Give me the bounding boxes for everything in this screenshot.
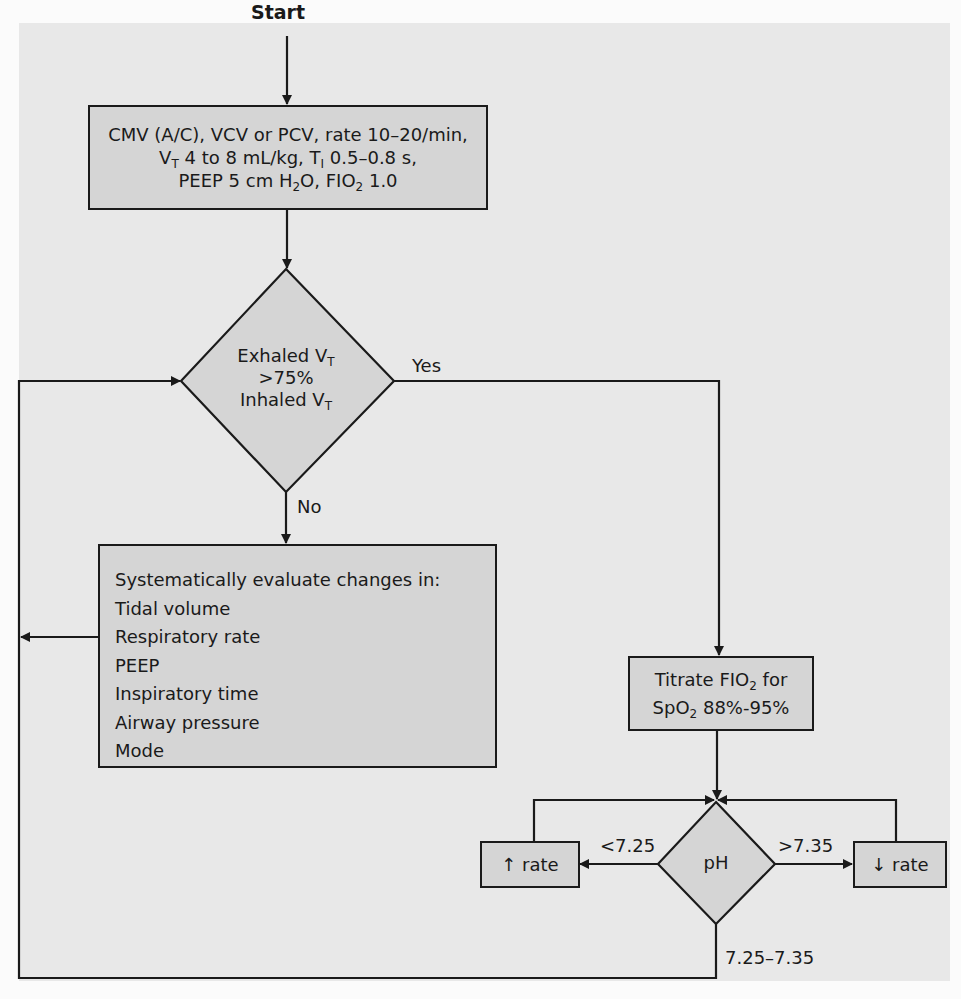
- settings-line-1: CMV (A/C), VCV or PCV, rate 10–20/min,: [90, 123, 486, 146]
- evaluate-item: Mode: [115, 737, 495, 766]
- down-arrow-icon: ↓: [871, 854, 886, 875]
- evaluate-item: Respiratory rate: [115, 623, 495, 652]
- titrate-box: Titrate FIO2 for SpO2 88%-95%: [628, 656, 814, 731]
- no-label: No: [297, 497, 321, 517]
- ph-label: pH: [686, 852, 746, 874]
- evaluate-item: Inspiratory time: [115, 680, 495, 709]
- evaluate-item: Tidal volume: [115, 595, 495, 624]
- low-ph-label: <7.25: [600, 836, 655, 856]
- evaluate-item: PEEP: [115, 652, 495, 681]
- increase-rate-box: ↑ rate: [480, 841, 580, 888]
- decrease-rate-box: ↓ rate: [853, 841, 947, 888]
- settings-line-3: PEEP 5 cm H2O, FIO2 1.0: [90, 169, 486, 192]
- evaluate-item: Airway pressure: [115, 709, 495, 738]
- evaluate-box: Systematically evaluate changes in: Tida…: [98, 544, 497, 768]
- up-arrow-icon: ↑: [501, 854, 516, 875]
- high-ph-label: >7.35: [778, 836, 833, 856]
- vt-decision-text: Exhaled VT >75% Inhaled VT: [196, 345, 376, 411]
- evaluate-title: Systematically evaluate changes in:: [115, 566, 495, 595]
- yes-label: Yes: [412, 356, 441, 376]
- normal-ph-label: 7.25–7.35: [725, 948, 814, 968]
- start-label: Start: [251, 2, 305, 22]
- settings-line-2: VT 4 to 8 mL/kg, TI 0.5–0.8 s,: [90, 146, 486, 169]
- initial-settings-box: CMV (A/C), VCV or PCV, rate 10–20/min, V…: [88, 105, 488, 210]
